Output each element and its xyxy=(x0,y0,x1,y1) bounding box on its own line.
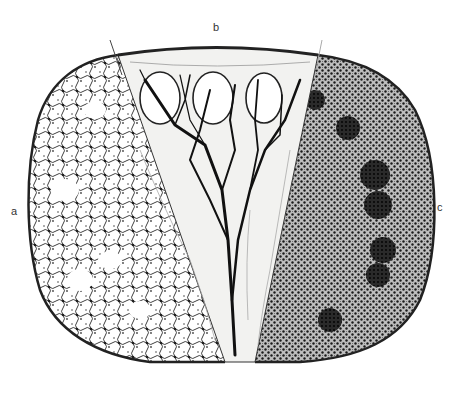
lymph-node-illustration xyxy=(0,0,465,394)
label-c: c xyxy=(437,202,443,213)
label-b: b xyxy=(213,22,219,33)
label-a: a xyxy=(11,206,17,217)
